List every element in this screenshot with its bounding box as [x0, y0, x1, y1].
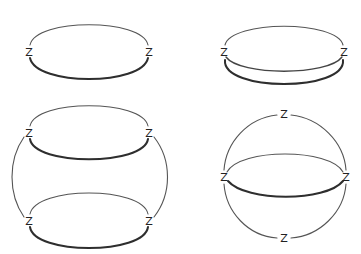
vertex-label-z: Z — [280, 232, 288, 245]
edge-right-side-arc — [154, 137, 168, 217]
diagram-canvas: Z Z Z Z Z Z Z Z Z Z Z Z — [0, 0, 361, 254]
edge-bottom-pair-lower-arc — [30, 227, 148, 248]
vertex-label-z: Z — [25, 46, 33, 59]
edge-equator-upper-arc — [227, 154, 343, 172]
edge-middle-arc — [226, 57, 342, 71]
edge-upper-arc — [30, 25, 148, 45]
edge-lower-right-arc — [291, 184, 346, 238]
vertex-label-z: Z — [340, 46, 348, 59]
figure-bottom-left: Z Z Z Z — [12, 106, 168, 248]
figure-bottom-right: Z Z Z Z — [220, 108, 350, 245]
edge-upper-arc — [225, 26, 343, 45]
edge-lower-arc — [30, 58, 148, 79]
edge-left-side-arc — [12, 137, 24, 217]
edge-bottom-pair-upper-arc — [30, 193, 148, 214]
vertex-label-z: Z — [220, 171, 228, 184]
vertex-label-z: Z — [342, 171, 350, 184]
vertex-label-z: Z — [25, 127, 33, 140]
figure-top-right: Z Z — [220, 26, 348, 84]
edge-equator-lower-arc — [228, 181, 343, 197]
vertex-label-z: Z — [280, 108, 288, 121]
edge-upper-right-arc — [291, 115, 346, 170]
vertex-label-z: Z — [145, 127, 153, 140]
vertex-label-z: Z — [145, 46, 153, 59]
edge-top-pair-upper-arc — [30, 106, 148, 126]
vertex-label-z: Z — [220, 46, 228, 59]
edge-top-pair-lower-arc — [30, 139, 148, 159]
edge-upper-left-arc — [224, 115, 277, 170]
vertex-label-z: Z — [145, 215, 153, 228]
edge-lower-arc — [225, 60, 343, 84]
vertex-label-z: Z — [25, 215, 33, 228]
figure-top-left: Z Z — [25, 25, 153, 79]
